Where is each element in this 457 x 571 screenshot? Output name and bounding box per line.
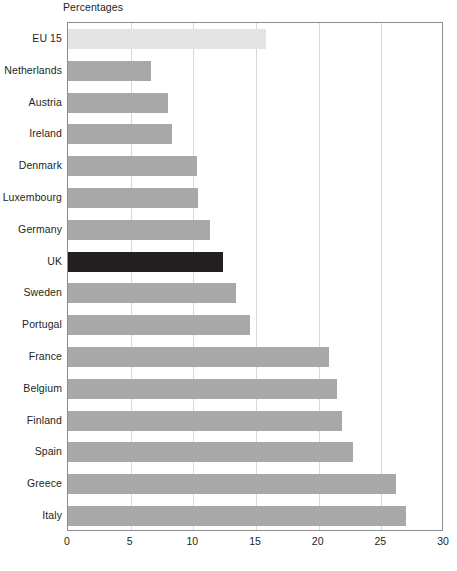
x-tick-label: 15 bbox=[249, 534, 261, 548]
bar bbox=[68, 347, 329, 367]
x-tick-label: 5 bbox=[127, 534, 133, 548]
category-label: Austria bbox=[0, 96, 62, 108]
category-label: EU 15 bbox=[0, 32, 62, 44]
category-label: Germany bbox=[0, 223, 62, 235]
x-tick-label: 0 bbox=[64, 534, 70, 548]
bar bbox=[68, 474, 396, 494]
category-label: Italy bbox=[0, 509, 62, 521]
category-axis: EU 15NetherlandsAustriaIrelandDenmarkLux… bbox=[0, 22, 62, 531]
bar bbox=[68, 442, 353, 462]
bar bbox=[68, 61, 151, 81]
bar bbox=[68, 220, 210, 240]
chart-title: Percentages bbox=[63, 1, 123, 14]
bar bbox=[68, 379, 337, 399]
category-label: Spain bbox=[0, 445, 62, 457]
bar-chart: Percentages EU 15NetherlandsAustriaIrela… bbox=[0, 0, 457, 571]
bar bbox=[68, 188, 198, 208]
category-label: France bbox=[0, 350, 62, 362]
bar bbox=[68, 411, 342, 431]
category-label: Belgium bbox=[0, 382, 62, 394]
category-label: Greece bbox=[0, 477, 62, 489]
bar bbox=[68, 93, 168, 113]
x-tick-label: 30 bbox=[437, 534, 449, 548]
bar bbox=[68, 124, 172, 144]
plot-area bbox=[67, 22, 443, 531]
x-tick-label: 20 bbox=[312, 534, 324, 548]
category-label: Finland bbox=[0, 414, 62, 426]
category-label: Ireland bbox=[0, 127, 62, 139]
category-label: Portugal bbox=[0, 318, 62, 330]
x-tick-label: 25 bbox=[374, 534, 386, 548]
bar bbox=[68, 252, 223, 272]
x-axis: 051015202530 bbox=[67, 534, 443, 554]
category-label: Sweden bbox=[0, 286, 62, 298]
bar bbox=[68, 315, 250, 335]
bars-layer bbox=[68, 23, 442, 530]
category-label: UK bbox=[0, 255, 62, 267]
bar bbox=[68, 506, 406, 526]
category-label: Netherlands bbox=[0, 64, 62, 76]
x-tick-label: 10 bbox=[186, 534, 198, 548]
category-label: Denmark bbox=[0, 159, 62, 171]
category-label: Luxembourg bbox=[0, 191, 62, 203]
bar bbox=[68, 156, 197, 176]
bar bbox=[68, 283, 236, 303]
bar bbox=[68, 29, 266, 49]
